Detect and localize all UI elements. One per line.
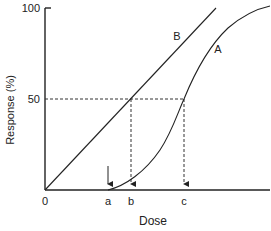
x-axis-label: Dose (139, 214, 167, 228)
label-a: A (214, 43, 222, 55)
y-tick-50: 50 (28, 93, 40, 105)
x-tick-b: b (128, 195, 134, 207)
x-tick-a: a (105, 195, 112, 207)
y-tick-100: 100 (22, 2, 40, 14)
label-b: B (173, 30, 180, 42)
x-tick-c: c (181, 195, 187, 207)
dose-response-diagram: 100 50 0 a b c Dose Response (%) B A (0, 0, 271, 231)
y-axis-label: Response (%) (4, 75, 16, 145)
curve-a (108, 6, 270, 190)
x-tick-0: 0 (42, 195, 48, 207)
